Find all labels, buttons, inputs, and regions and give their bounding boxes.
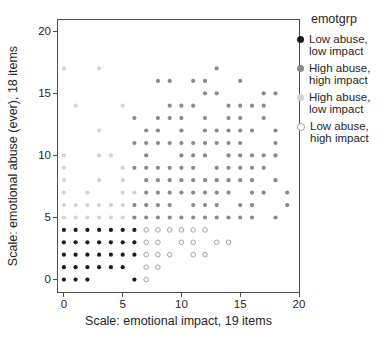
data-point <box>62 178 66 182</box>
data-point <box>203 79 207 83</box>
data-point <box>97 178 101 182</box>
y-tick <box>53 155 58 156</box>
data-point <box>168 215 172 219</box>
data-point <box>74 203 78 207</box>
data-point <box>109 203 113 207</box>
y-tick-label: 20 <box>27 25 51 38</box>
data-point <box>191 166 195 170</box>
data-point <box>262 104 266 108</box>
data-point <box>109 265 113 269</box>
data-point <box>62 253 66 257</box>
data-point <box>215 141 219 145</box>
data-point <box>191 178 195 182</box>
data-point <box>250 166 254 170</box>
data-point <box>273 128 277 132</box>
data-point <box>168 79 172 83</box>
data-point <box>85 253 89 257</box>
data-point <box>215 128 219 132</box>
data-point <box>273 141 277 145</box>
data-point <box>97 203 101 207</box>
data-point <box>203 215 207 219</box>
data-point <box>156 215 160 219</box>
legend: emotgrp Low abuse,low impactHigh abuse,h… <box>296 12 390 150</box>
data-point <box>156 191 160 195</box>
data-point <box>238 215 242 219</box>
scatter-figure: Scale: emotional abuse (ever), 18 items … <box>0 0 390 343</box>
data-point <box>179 141 183 145</box>
data-point <box>238 166 242 170</box>
data-point <box>226 153 230 157</box>
data-point <box>121 215 125 219</box>
y-tick-label: 15 <box>27 87 51 100</box>
legend-item-label-line: Low abuse, <box>310 121 369 133</box>
data-point <box>156 228 161 233</box>
data-point <box>238 153 242 157</box>
data-point <box>191 240 196 245</box>
data-point <box>132 166 136 170</box>
data-point <box>85 215 89 219</box>
legend-item-label: High abuse,low impact <box>309 92 370 115</box>
legend-item: Low abuse,high impact <box>296 121 390 144</box>
data-point <box>191 141 195 145</box>
x-tick <box>63 293 64 297</box>
data-point <box>250 153 254 157</box>
data-point <box>191 228 196 233</box>
data-point <box>168 104 172 108</box>
data-point <box>132 240 136 244</box>
data-point <box>226 128 230 132</box>
data-point <box>132 278 136 282</box>
data-point <box>226 240 231 245</box>
data-point <box>191 215 195 219</box>
data-point <box>285 203 289 207</box>
x-tick-label: 10 <box>166 298 196 311</box>
data-point <box>203 91 207 95</box>
data-point <box>97 253 101 257</box>
data-point <box>156 128 160 132</box>
scatter-points <box>58 20 299 292</box>
data-point <box>62 215 66 219</box>
data-point <box>85 240 89 244</box>
data-point <box>167 252 172 257</box>
data-point <box>97 128 101 132</box>
data-point <box>168 116 172 120</box>
data-point <box>168 178 172 182</box>
legend-item-label-line: low impact <box>309 46 368 58</box>
data-point <box>97 153 101 157</box>
data-point <box>156 240 161 245</box>
data-point <box>121 240 125 244</box>
y-tick <box>53 217 58 218</box>
data-point <box>215 191 219 195</box>
data-point <box>214 240 219 245</box>
data-point <box>62 278 66 282</box>
legend-item: Low abuse,low impact <box>296 34 390 57</box>
data-point <box>179 116 183 120</box>
data-point <box>191 252 196 257</box>
legend-item-label-line: Low abuse, <box>309 34 368 46</box>
data-point <box>85 265 89 269</box>
plot-area <box>57 19 300 293</box>
legend-item-label-line: High abuse, <box>309 92 370 104</box>
data-point <box>62 265 66 269</box>
data-point <box>179 104 183 108</box>
data-point <box>144 240 149 245</box>
data-point <box>203 228 208 233</box>
data-point <box>156 203 160 207</box>
data-point <box>121 191 125 195</box>
data-point <box>74 253 78 257</box>
y-tick-label: 0 <box>27 273 51 286</box>
data-point <box>74 240 78 244</box>
data-point <box>132 253 136 257</box>
data-point <box>262 166 266 170</box>
data-point <box>144 277 149 282</box>
data-point <box>97 240 101 244</box>
data-point <box>273 178 277 182</box>
data-point <box>121 166 125 170</box>
data-point <box>262 116 266 120</box>
legend-item-label-line: high impact <box>309 75 370 87</box>
data-point <box>121 265 125 269</box>
legend-title: emotgrp <box>296 12 390 26</box>
data-point <box>62 166 66 170</box>
data-point <box>238 116 242 120</box>
data-point <box>179 215 183 219</box>
data-point <box>250 178 254 182</box>
